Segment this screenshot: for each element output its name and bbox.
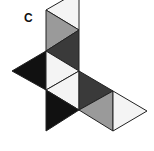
- triangle-face-t4: [12, 51, 46, 90]
- triangle-face-t10: [113, 91, 147, 131]
- triangle-net-diagram: [0, 0, 154, 151]
